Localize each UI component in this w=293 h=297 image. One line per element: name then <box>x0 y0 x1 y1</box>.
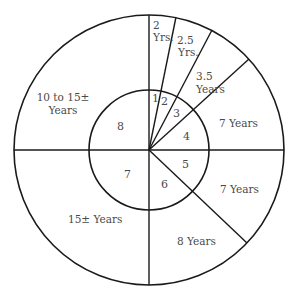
outer-label-seg5: 7 Years <box>220 183 259 195</box>
inner-label-seg1: 1 <box>152 92 159 105</box>
outer-label-seg3-line2: Years <box>195 83 225 95</box>
outer-label-seg4: 7 Years <box>219 117 258 129</box>
outer-label-seg1-line2: Yrs. <box>152 31 174 43</box>
outer-label-seg8-line2: Years <box>48 104 78 116</box>
outer-label-seg3-line1: 3.5 <box>196 70 213 82</box>
inner-label-seg3: 3 <box>173 107 180 120</box>
outer-label-seg6: 8 Years <box>177 235 216 247</box>
inner-label-seg6: 6 <box>161 178 168 191</box>
outer-label-seg2-line2: Yrs. <box>177 46 199 58</box>
outer-label-seg2-line1: 2.5 <box>177 34 194 46</box>
outer-label-seg7: 15± Years <box>68 213 122 225</box>
outer-label-seg1-line1: 2 <box>153 19 160 31</box>
inner-label-seg7: 7 <box>124 168 131 181</box>
rotation-cycle-diagram: 2 Yrs. 2.5 Yrs. 3.5 Years 7 Years 7 Year… <box>0 0 293 297</box>
spoke-seg5-seg6 <box>149 150 247 243</box>
inner-label-seg2: 2 <box>161 95 168 108</box>
outer-label-seg8-line1: 10 to 15± <box>37 91 90 103</box>
inner-label-seg8: 8 <box>117 120 124 133</box>
inner-label-seg4: 4 <box>183 130 190 143</box>
inner-label-seg5: 5 <box>182 158 189 171</box>
